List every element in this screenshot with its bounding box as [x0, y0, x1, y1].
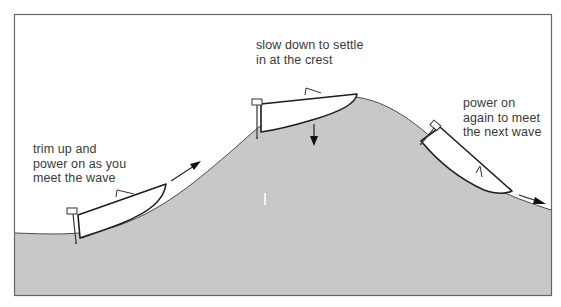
label-line: power on as you: [33, 157, 126, 172]
label-line: power on: [463, 96, 541, 111]
label-line: in at the crest: [256, 53, 364, 68]
label-line: again to meet: [463, 111, 541, 126]
boat-2-windscreen-icon: [305, 88, 321, 95]
label-slow-down: slow down to settle in at the crest: [256, 38, 364, 67]
wave-diagram: trim up and power on as you meet the wav…: [0, 0, 561, 307]
label-line: slow down to settle: [256, 38, 364, 53]
water-highlight: [264, 193, 266, 205]
arrow-forward-up-icon: [171, 161, 201, 181]
boat-1-outboard-icon: [67, 208, 77, 214]
label-line: trim up and: [33, 142, 126, 157]
label-line: meet the wave: [33, 171, 126, 186]
label-power-on-again: power on again to meet the next wave: [463, 96, 541, 140]
boat-2-outboard-icon: [252, 99, 262, 105]
label-trim-up: trim up and power on as you meet the wav…: [33, 142, 126, 186]
label-line: the next wave: [463, 125, 541, 140]
